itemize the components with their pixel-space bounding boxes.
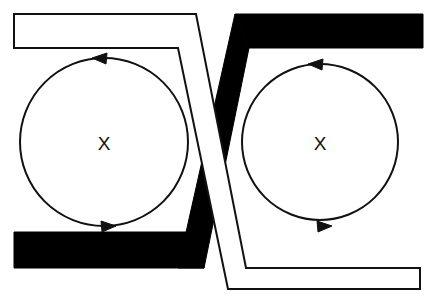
black-band-bottom-arm (14, 232, 204, 268)
black-band-top-arm (235, 14, 423, 48)
left-loop-center-label: X (98, 133, 111, 154)
figure-container: X X (0, 0, 427, 302)
right-loop-center-label: X (314, 133, 327, 154)
diagram-canvas: X X (0, 0, 427, 302)
